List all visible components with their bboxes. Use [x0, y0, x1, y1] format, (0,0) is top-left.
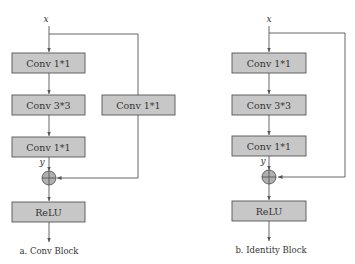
- conv-block: x Conv 1*1 Conv 3*3 Conv 1*1 Conv 1*1 y …: [12, 14, 175, 256]
- conv-block-conv1x1-b-label: Conv 1*1: [26, 142, 70, 153]
- identity-block-input-label: x: [266, 14, 271, 24]
- identity-block-conv1x1-a-label: Conv 1*1: [247, 58, 291, 69]
- identity-block: x Conv 1*1 Conv 3*3 Conv 1*1 y ReLU b. I…: [232, 14, 345, 255]
- identity-block-conv3x3-label: Conv 3*3: [247, 100, 291, 111]
- conv-block-caption: a. Conv Block: [19, 246, 79, 256]
- conv-block-input-label: x: [43, 14, 48, 24]
- conv-block-add-node: [42, 171, 56, 185]
- identity-block-add-node: [262, 170, 276, 184]
- conv-block-relu-label: ReLU: [35, 207, 62, 218]
- conv-block-output-label: y: [38, 157, 45, 167]
- conv-block-conv1x1-a-label: Conv 1*1: [26, 58, 70, 69]
- conv-block-conv3x3-label: Conv 3*3: [26, 100, 70, 111]
- identity-block-caption: b. Identity Block: [235, 245, 307, 255]
- identity-block-output-label: y: [259, 156, 266, 166]
- conv-block-shortcut-conv1x1-label: Conv 1*1: [116, 100, 160, 111]
- identity-block-relu-label: ReLU: [256, 206, 283, 217]
- identity-block-conv1x1-b-label: Conv 1*1: [247, 141, 291, 152]
- resnet-blocks-diagram: x Conv 1*1 Conv 3*3 Conv 1*1 Conv 1*1 y …: [0, 0, 355, 264]
